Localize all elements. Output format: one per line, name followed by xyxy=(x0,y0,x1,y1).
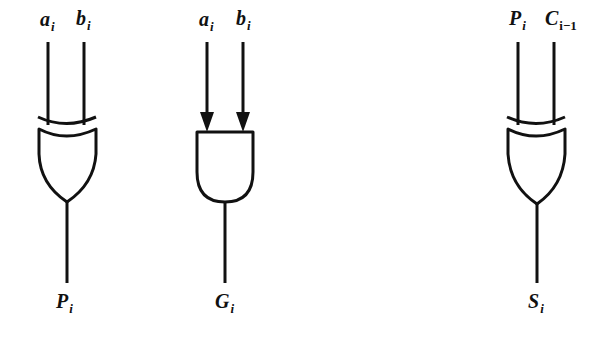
input-label-b: bi xyxy=(236,8,251,28)
label-sub: i−1 xyxy=(559,18,577,33)
label-sub: i xyxy=(540,301,544,316)
xor-gate-body xyxy=(508,129,565,204)
label-sub: i xyxy=(210,19,214,34)
output-label-g: Gi xyxy=(215,291,234,311)
input-label-b: bi xyxy=(76,8,91,28)
output-label-p: Pi xyxy=(56,291,73,311)
output-label-s: Si xyxy=(528,291,544,311)
label-main: C xyxy=(545,7,558,29)
logic-diagram: ai bi Pi ai bi Gi Pi Ci−1 Si xyxy=(0,0,595,347)
label-main: b xyxy=(236,7,246,29)
label-main: S xyxy=(528,290,539,312)
xor-input-arc xyxy=(507,117,565,124)
input-label-a: ai xyxy=(199,9,214,29)
input-label-p: Pi xyxy=(509,8,526,28)
input-label-a: ai xyxy=(40,9,55,29)
label-main: P xyxy=(56,290,68,312)
label-main: a xyxy=(40,8,50,30)
label-sub: i xyxy=(230,301,234,316)
arrowhead-icon xyxy=(200,112,214,132)
and-gate-generate xyxy=(197,42,253,283)
label-sub: i xyxy=(522,18,526,33)
label-main: a xyxy=(199,8,209,30)
label-sub: i xyxy=(87,18,91,33)
and-gate-body xyxy=(197,132,253,202)
input-label-c: Ci−1 xyxy=(545,8,577,28)
label-main: G xyxy=(215,290,229,312)
label-sub: i xyxy=(51,19,55,34)
label-sub: i xyxy=(69,301,73,316)
label-main: b xyxy=(76,7,86,29)
arrowhead-icon xyxy=(236,112,250,132)
xor-gate-sum xyxy=(507,42,565,283)
xor-gate-body xyxy=(39,129,96,202)
xor-gate-propagate xyxy=(38,42,96,283)
label-sub: i xyxy=(247,18,251,33)
label-main: P xyxy=(509,7,521,29)
